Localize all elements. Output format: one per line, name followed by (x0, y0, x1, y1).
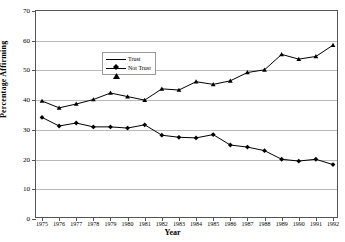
data-point (142, 122, 147, 127)
data-point (159, 133, 164, 138)
legend-label-trust: Trust (128, 56, 140, 62)
x-tick-label: 1978 (87, 221, 99, 227)
x-tick-label: 1981 (139, 221, 151, 227)
data-point (211, 132, 216, 137)
series-line (42, 45, 333, 108)
plot-area: 010203040506070 197519761977197819791980… (35, 10, 338, 218)
series-not-trust (40, 43, 336, 110)
triangle-marker-icon (106, 64, 126, 72)
data-point (313, 157, 318, 162)
y-tick-label: 60 (23, 37, 30, 44)
x-tick-label: 1977 (70, 221, 82, 227)
series-trust (40, 115, 336, 167)
data-point (313, 54, 318, 58)
data-point (57, 124, 62, 129)
y-tick (32, 219, 36, 220)
data-point (331, 162, 336, 167)
chart-legend: Trust Not Trust (102, 52, 156, 75)
y-tick-label: 0 (27, 216, 31, 223)
data-point (177, 135, 182, 140)
data-point (262, 148, 267, 153)
data-series-layer (36, 11, 339, 219)
data-point (74, 121, 79, 126)
chart-container: Percentage Affirming Year 01020304050607… (0, 0, 345, 242)
x-tick-label: 1985 (207, 221, 219, 227)
x-tick-label: 1984 (190, 221, 202, 227)
y-tick-label: 50 (23, 67, 30, 74)
y-tick-label: 30 (23, 126, 30, 133)
x-tick-label: 1986 (224, 221, 236, 227)
chart-title (0, 0, 345, 5)
data-point (279, 157, 284, 162)
data-point (40, 99, 45, 103)
y-tick-label: 40 (23, 97, 30, 104)
data-point (245, 145, 250, 150)
legend-item-not-trust: Not Trust (106, 64, 151, 72)
y-tick-label: 70 (23, 8, 30, 15)
x-axis-label: Year (0, 228, 345, 237)
data-point (125, 126, 130, 131)
data-point (40, 115, 45, 120)
legend-label-not-trust: Not Trust (128, 65, 151, 71)
x-tick-label: 1991 (310, 221, 322, 227)
data-point (108, 124, 113, 129)
y-tick-label: 10 (23, 186, 30, 193)
diamond-marker-icon (106, 55, 126, 63)
legend-item-trust: Trust (106, 55, 151, 63)
series-line (42, 117, 333, 164)
y-tick-label: 20 (23, 156, 30, 163)
data-point (279, 52, 284, 56)
x-tick-label: 1979 (104, 221, 116, 227)
y-axis-label: Percentage Affirming (0, 41, 8, 118)
x-tick-label: 1990 (293, 221, 305, 227)
data-point (194, 79, 199, 83)
x-tick-label: 1975 (36, 221, 48, 227)
data-point (228, 143, 233, 148)
data-point (296, 159, 301, 164)
x-tick-label: 1976 (53, 221, 65, 227)
x-tick-label: 1980 (122, 221, 134, 227)
data-point (194, 135, 199, 140)
x-tick-label: 1983 (173, 221, 185, 227)
data-point (331, 43, 336, 47)
x-tick-label: 1982 (156, 221, 168, 227)
data-point (108, 91, 113, 95)
data-point (91, 124, 96, 129)
x-tick-label: 1988 (259, 221, 271, 227)
x-tick-label: 1989 (276, 221, 288, 227)
x-tick-label: 1987 (241, 221, 253, 227)
x-tick-label: 1992 (327, 221, 339, 227)
